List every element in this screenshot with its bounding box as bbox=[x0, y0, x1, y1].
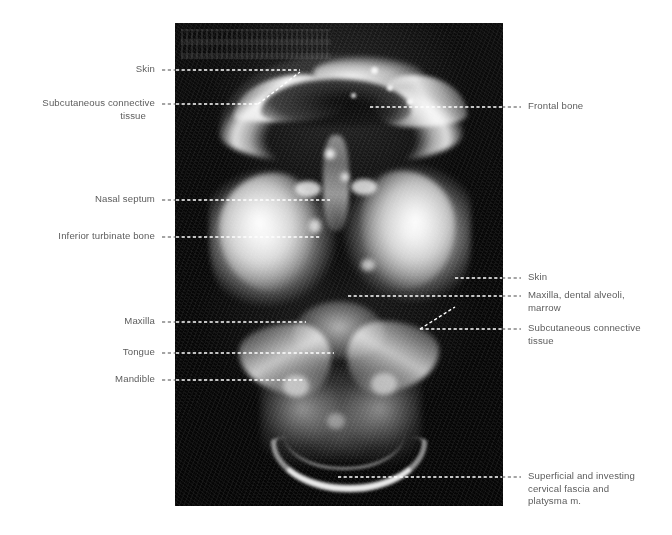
label-line: tissue bbox=[528, 335, 670, 348]
label-line: Maxilla, dental alveoli, bbox=[528, 289, 670, 302]
label-inferior-turbinate-bone: Inferior turbinate bone bbox=[0, 230, 155, 243]
label-maxilla-dental-alveoli-marrow: Maxilla, dental alveoli,marrow bbox=[528, 289, 670, 314]
label-line: Subcutaneous connective bbox=[528, 322, 670, 335]
label-skin-lateral: Skin bbox=[528, 271, 668, 284]
scan-film-grain bbox=[175, 23, 503, 506]
label-line: Subcutaneous connective bbox=[0, 97, 155, 110]
label-tongue: Tongue bbox=[0, 346, 155, 359]
label-superficial-investing-cervical-fascia-platysma: Superficial and investingcervical fascia… bbox=[528, 470, 670, 508]
label-line: cervical fascia and bbox=[528, 483, 670, 496]
label-nasal-septum: Nasal septum bbox=[0, 193, 155, 206]
label-maxilla: Maxilla bbox=[0, 315, 155, 328]
label-skin-top: Skin bbox=[0, 63, 155, 76]
anatomical-figure: Skin Subcutaneous connectivetissue Nasal… bbox=[0, 0, 672, 535]
leader-lines-left-outside bbox=[162, 70, 176, 380]
label-line: Superficial and investing bbox=[528, 470, 670, 483]
label-line: marrow bbox=[528, 302, 670, 315]
label-subcutaneous-connective-tissue-top: Subcutaneous connectivetissue bbox=[0, 97, 155, 122]
label-subcutaneous-connective-tissue-lateral: Subcutaneous connectivetissue bbox=[528, 322, 670, 347]
leader-lines-right-outside bbox=[502, 107, 521, 477]
scanner-annotation-text bbox=[181, 29, 331, 59]
label-mandible: Mandible bbox=[0, 373, 155, 386]
label-line: tissue bbox=[0, 110, 155, 123]
label-line: platysma m. bbox=[528, 495, 670, 508]
label-frontal-bone: Frontal bone bbox=[528, 100, 668, 113]
mri-scan-image bbox=[175, 23, 503, 506]
